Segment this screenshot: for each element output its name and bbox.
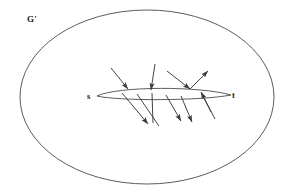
flow-arrow-in-3 (167, 71, 190, 89)
flow-arrow-out-1 (190, 71, 208, 89)
source-node-label: s (87, 92, 90, 101)
region-label-g-prime: G' (27, 15, 37, 24)
flow-arrow-in-2 (151, 64, 155, 90)
flow-arrow-out-3 (137, 94, 159, 126)
sink-node-label: t (232, 91, 235, 100)
figure-canvas (0, 0, 290, 194)
flow-arrow-out-7 (203, 96, 215, 119)
flow-arrow-out-2 (122, 93, 148, 124)
flow-arrow-out-4 (152, 93, 153, 123)
cut-lens-shape (97, 88, 231, 99)
outer-region-boundary (20, 10, 274, 184)
flow-arrow-out-6 (181, 96, 192, 122)
graph-cut-figure: G' s t (0, 0, 290, 194)
flow-arrow-out-5 (166, 95, 181, 121)
flow-arrow-layer (111, 64, 215, 126)
flow-arrow-in-1 (111, 68, 128, 89)
